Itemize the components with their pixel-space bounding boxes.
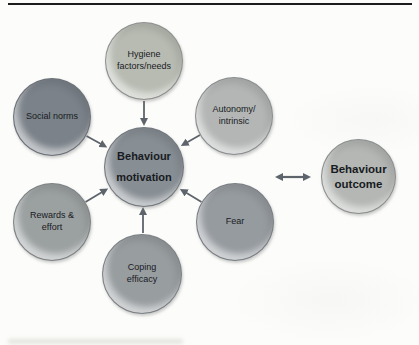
node-social-norms-label: Social norms <box>24 109 80 125</box>
node-hygiene-factors: Hygiene factors/needs <box>105 22 183 100</box>
arrow-fear-to-motivation <box>185 192 202 202</box>
top-rule-divider <box>8 3 412 5</box>
node-rewards-effort-label: Rewards & effort <box>28 208 76 235</box>
node-coping-efficacy: Coping efficacy <box>102 234 182 314</box>
node-social-norms: Social norms <box>13 78 91 156</box>
node-autonomy-intrinsic-label: Autonomy/ intrinsic <box>210 102 257 129</box>
node-hygiene-factors-label: Hygiene factors/needs <box>115 47 173 74</box>
arrow-rewards-to-motivation <box>86 192 104 203</box>
arrow-autonomy-to-motivation <box>186 135 200 143</box>
node-coping-efficacy-label: Coping efficacy <box>125 260 159 287</box>
behaviour-motivation-diagram: Hygiene factors/needs Social norms Auton… <box>0 0 419 345</box>
node-fear-label: Fear <box>224 214 247 230</box>
node-autonomy-intrinsic: Autonomy/ intrinsic <box>195 77 273 155</box>
node-behaviour-motivation: Behaviour motivation <box>104 127 184 207</box>
node-fear: Fear <box>196 183 274 261</box>
arrow-social-to-motivation <box>87 136 103 145</box>
node-behaviour-outcome: Behaviour outcome <box>321 139 396 214</box>
faint-caption-artifact <box>8 339 183 344</box>
node-rewards-effort: Rewards & effort <box>13 183 91 261</box>
node-behaviour-motivation-label: Behaviour motivation <box>114 144 174 190</box>
node-behaviour-outcome-label: Behaviour outcome <box>328 160 388 194</box>
